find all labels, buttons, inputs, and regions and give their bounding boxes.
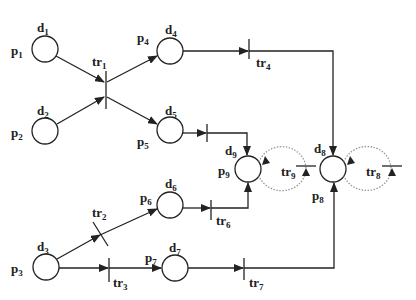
label-p4: p4 [137,31,149,47]
label-tr6: tr6 [216,214,231,230]
label-p3: p3 [11,262,23,278]
label-p2: p2 [11,126,23,142]
place-p3 [33,254,59,280]
label-p7: p7 [145,251,157,267]
label-d3: d3 [37,240,49,256]
place-p6 [157,192,183,218]
label-p8: p8 [312,189,324,205]
place-p4 [157,38,183,64]
label-p1: p1 [11,44,23,60]
place-p7 [162,255,188,281]
label-p9: p9 [218,164,230,180]
label-tr4: tr4 [256,56,271,72]
label-p5: p5 [137,135,149,151]
place-p9 [235,156,261,182]
label-tr1: tr1 [92,55,107,71]
label-tr2: tr2 [92,206,107,222]
transition-tr2 [93,222,108,246]
petri-net-canvas [0,0,416,300]
label-d7: d7 [169,241,181,257]
place-p8 [320,156,346,182]
label-tr3: tr3 [113,276,128,292]
label-p6: p6 [140,191,152,207]
label-tr8: tr8 [366,165,381,181]
label-d6: d6 [165,177,177,193]
label-d2: d2 [37,104,49,120]
place-p2 [32,118,58,144]
place-p5 [157,117,183,143]
label-d9: d9 [225,144,237,160]
label-d5: d5 [165,104,177,120]
place-p1 [32,36,58,62]
label-tr7: tr7 [249,276,264,292]
label-d1: d1 [37,21,49,37]
label-tr9: tr9 [281,165,296,181]
label-d8: d8 [314,142,326,158]
label-d4: d4 [165,23,177,39]
